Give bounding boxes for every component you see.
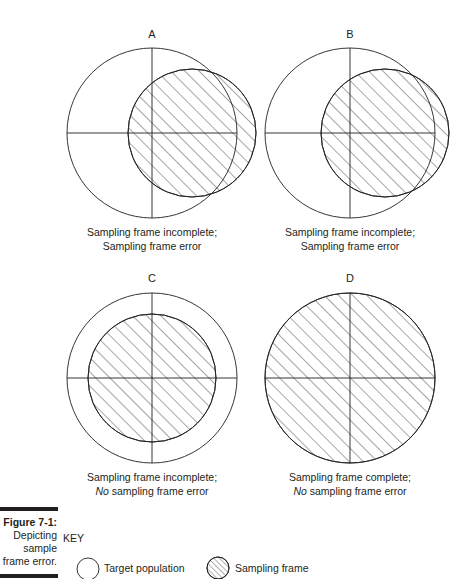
caption-line1: Sampling frame incomplete; — [87, 225, 217, 239]
caption-line1: Sampling frame incomplete; — [285, 225, 415, 239]
caption-line1: Sampling frame incomplete; — [87, 470, 217, 484]
figure-desc: sample — [3, 542, 57, 555]
target-population-icon — [77, 558, 99, 579]
panel-a-caption: Sampling frame incomplete; Sampling fram… — [87, 225, 217, 253]
caption-line2: No sampling frame error — [289, 484, 411, 498]
panel-a-diagram — [67, 48, 256, 218]
figure-bottom-rule — [0, 574, 58, 578]
figure-desc: frame error. — [3, 555, 57, 568]
caption-line2: No sampling frame error — [87, 484, 217, 498]
panel-d-caption: Sampling frame complete; No sampling fra… — [289, 470, 411, 498]
caption-line2: Sampling frame error — [87, 239, 217, 253]
panel-c-caption: Sampling frame incomplete; No sampling f… — [87, 470, 217, 498]
panel-c-diagram — [67, 293, 237, 463]
panel-b-caption: Sampling frame incomplete; Sampling fram… — [285, 225, 415, 253]
caption-line1: Sampling frame complete; — [289, 470, 411, 484]
legend-sampling-frame: Sampling frame — [235, 562, 309, 574]
figure-desc: Depicting — [3, 529, 57, 542]
panel-d-diagram — [265, 293, 435, 463]
figure-top-rule — [0, 507, 58, 511]
caption-line2: Sampling frame error — [285, 239, 415, 253]
legend-target-population: Target population — [104, 562, 185, 574]
panel-b-diagram — [265, 48, 449, 218]
figure-number: Figure 7-1: — [3, 516, 57, 528]
key-title: KEY — [63, 532, 84, 544]
panel-c-label: C — [148, 272, 156, 284]
figure-caption: Figure 7-1: Depicting sample frame error… — [3, 516, 57, 568]
panel-b-label: B — [346, 28, 353, 40]
panel-d-label: D — [346, 272, 354, 284]
panel-a-label: A — [148, 28, 155, 40]
